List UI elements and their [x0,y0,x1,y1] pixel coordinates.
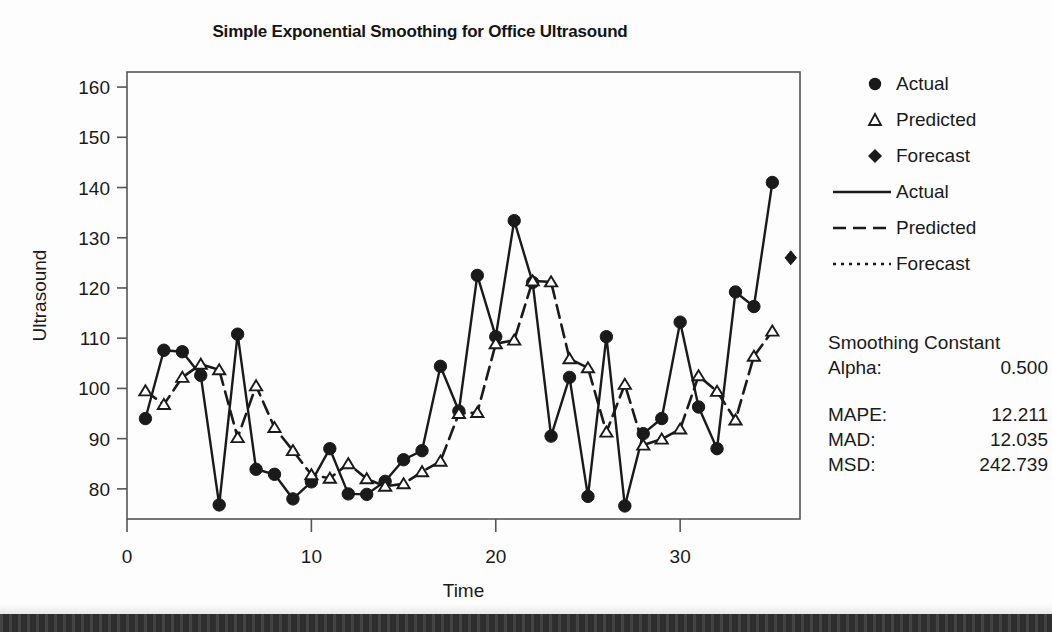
data-point [508,335,520,345]
data-point [232,432,244,442]
statistic-value: 12.211 [991,402,1048,427]
series-predicted [145,281,772,486]
statistic-label: MAD: [828,427,876,452]
data-point [600,330,612,342]
x-axis-tick-label: 0 [122,546,133,567]
alpha-value: 0.500 [1000,355,1048,380]
data-point [729,414,741,424]
y-axis-tick-label: 110 [80,328,110,349]
data-point [692,401,704,413]
y-axis-tick-label: 90 [89,429,110,450]
data-point [656,412,668,424]
legend-item: Predicted [828,210,1044,246]
legend-dashed-line-icon [828,218,896,238]
data-point [766,326,778,336]
data-point [360,488,372,500]
legend-item: Actual [828,174,1044,210]
data-point [563,371,575,383]
data-point [213,499,225,511]
data-point [674,316,686,328]
data-point [416,466,428,476]
y-axis-title: Ultrasound [29,250,50,342]
data-point [250,380,262,390]
plot-frame [127,72,800,519]
stats-spacer [828,380,1048,402]
legend-item: Forecast [828,246,1044,282]
data-point [231,328,243,340]
y-axis-tick-label: 120 [78,278,110,299]
data-point [176,346,188,358]
legend-item: Predicted [828,102,1044,138]
data-point [397,454,409,466]
y-axis-tick-label: 130 [78,228,110,249]
alpha-row: Alpha: 0.500 [828,355,1048,380]
data-point [711,442,723,454]
chart-page: Simple Exponential Smoothing for Office … [0,0,1052,632]
data-point [619,379,631,389]
series-markers-actual [139,176,778,512]
data-point [582,490,594,502]
data-point [471,269,483,281]
x-axis-tick-label: 30 [670,546,691,567]
legend-item: Actual [828,66,1044,102]
legend-item-label: Forecast [896,253,970,275]
statistic-row: MAPE:12.211 [828,402,1048,427]
legend-item-label: Forecast [896,145,970,167]
x-axis-title: Time [443,580,485,601]
data-point [508,214,520,226]
forecast-point [785,251,796,265]
legend-diamond-marker-icon [828,146,896,166]
data-point [416,444,428,456]
data-point [766,176,778,188]
x-axis-tick-label: 10 [301,546,322,567]
data-point [434,456,446,466]
data-point [250,463,262,475]
legend-item-label: Actual [896,73,949,95]
series-line-actual [145,182,772,505]
y-axis-tick-label: 150 [78,127,110,148]
scan-artifact-band [0,614,1052,632]
data-point [563,353,575,363]
data-point [600,426,612,436]
circle-icon [869,78,881,90]
data-point [342,458,354,468]
legend-circle-marker-icon [828,74,896,94]
data-point [268,468,280,480]
accuracy-measures: MAPE:12.211MAD:12.035MSD:242.739 [828,402,1048,477]
legend-item-label: Predicted [896,217,976,239]
statistics-panel: Smoothing Constant Alpha: 0.500 MAPE:12.… [828,330,1048,477]
series-line-predicted [145,281,772,486]
series-actual [145,182,772,505]
alpha-label: Alpha: [828,355,882,380]
series-forecast [785,251,796,265]
y-axis-tick-label: 100 [78,378,110,399]
data-point [139,385,151,395]
legend-solid-line-icon [828,182,896,202]
data-point [195,359,207,369]
statistic-row: MSD:242.739 [828,452,1048,477]
y-axis-tick-label: 80 [89,479,110,500]
data-point [195,369,207,381]
data-point [342,488,354,500]
statistic-label: MSD: [828,452,876,477]
statistic-value: 242.739 [979,452,1048,477]
legend-item-label: Actual [896,181,949,203]
data-point [582,362,594,372]
statistic-value: 12.035 [990,427,1048,452]
y-axis-tick-label: 160 [78,77,110,98]
chart-legend: ActualPredictedForecastActualPredictedFo… [828,66,1044,282]
y-axis-tick-label: 140 [78,178,110,199]
data-point [268,422,280,432]
data-point [729,286,741,298]
data-point [674,423,686,433]
data-point [619,500,631,512]
legend-dotted-line-icon [828,254,896,274]
statistic-row: MAD:12.035 [828,427,1048,452]
data-point [656,434,668,444]
legend-triangle-marker-icon [828,110,896,130]
legend-item-label: Predicted [896,109,976,131]
diamond-icon [868,149,882,163]
legend-item: Forecast [828,138,1044,174]
statistic-label: MAPE: [828,402,887,427]
smoothing-constant-header: Smoothing Constant [828,330,1048,355]
